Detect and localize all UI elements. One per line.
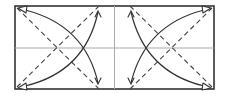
origami-diagram bbox=[0, 0, 227, 95]
